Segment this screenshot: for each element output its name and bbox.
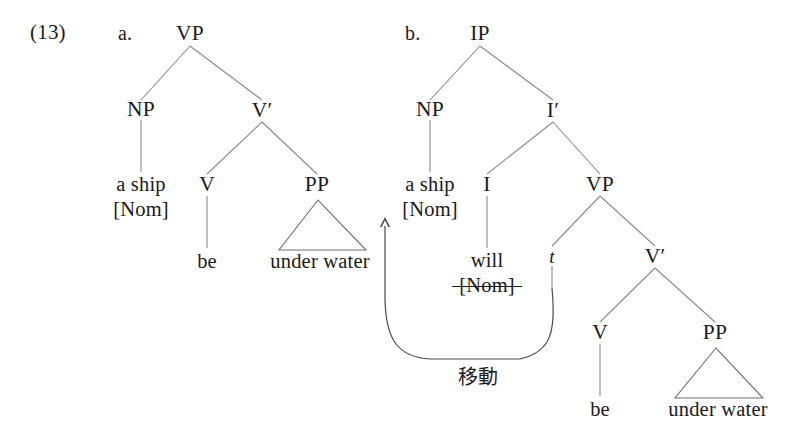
figure-canvas: (13) a. VP NP V′ a ship [Nom] V PP be un… (0, 0, 807, 440)
leaf-pp-phrase-a: under water (270, 251, 370, 272)
leaf-subject-b: a ship [Nom] (402, 172, 458, 222)
node-pp-b: PP (703, 322, 727, 344)
leaf-verb-b: be (590, 399, 610, 420)
tree-b-branches (430, 46, 715, 396)
node-v-b: V (592, 322, 608, 344)
leaf-subject-a-line1: a ship (113, 172, 169, 197)
node-v-a: V (199, 174, 215, 196)
struck-nom-feature: [Nom] (455, 273, 519, 298)
node-vp-b: VP (586, 174, 614, 196)
subexample-label-a: a. (118, 23, 132, 43)
node-ibar-b: I′ (547, 100, 559, 122)
leaf-infl-word: will (455, 248, 519, 273)
node-ip-b: IP (470, 23, 490, 45)
node-vbar-a: V′ (252, 100, 273, 122)
node-vbar-b: V′ (645, 246, 666, 268)
leaf-subject-b-line1: a ship (402, 172, 458, 197)
subexample-label-b: b. (405, 23, 420, 43)
leaf-subject-b-case: [Nom] (402, 197, 458, 222)
node-np-a: NP (127, 99, 155, 121)
node-i-b: I (483, 174, 490, 196)
movement-annotation-label: 移動 (458, 367, 498, 387)
node-vp-a: VP (176, 23, 204, 45)
leaf-verb-a: be (197, 251, 217, 272)
leaf-subject-a: a ship [Nom] (113, 172, 169, 222)
leaf-subject-a-case: [Nom] (113, 197, 169, 222)
node-pp-a: PP (305, 174, 329, 196)
node-np-b: NP (416, 99, 444, 121)
leaf-pp-phrase-b: under water (668, 399, 768, 420)
pp-triangle-b (675, 348, 763, 398)
leaf-infl-struck-case: [Nom] (455, 273, 519, 298)
example-number: (13) (30, 22, 66, 43)
pp-triangle-a (279, 200, 366, 250)
leaf-infl-b: will [Nom] (455, 248, 519, 298)
trace-t-b: t (549, 247, 554, 266)
